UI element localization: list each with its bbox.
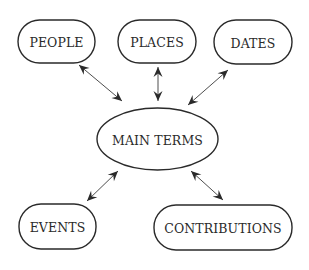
edge-events-main: [87, 171, 118, 201]
node-dates: DATES: [214, 20, 292, 64]
main-terms-label: MAIN TERMS: [112, 133, 203, 148]
connector-line: [79, 65, 122, 101]
contributions-label: CONTRIBUTIONS: [164, 221, 281, 236]
edge-contributions-main: [191, 171, 223, 200]
connector-line: [188, 70, 228, 105]
events-label: EVENTS: [30, 220, 86, 235]
center-node: MAIN TERMS: [97, 108, 218, 170]
node-contributions: CONTRIBUTIONS: [154, 205, 292, 250]
edge-dates-main: [188, 70, 228, 105]
people-label: PEOPLE: [29, 35, 83, 50]
node-people: PEOPLE: [18, 20, 95, 63]
places-label: PLACES: [130, 35, 184, 50]
concept-map-diagram: PEOPLEPLACESDATESEVENTSCONTRIBUTIONS MAI…: [0, 0, 309, 270]
edge-people-main: [79, 65, 122, 101]
edge-places-main: [154, 67, 163, 101]
node-events: EVENTS: [19, 204, 96, 249]
dates-label: DATES: [231, 36, 276, 51]
node-places: PLACES: [118, 20, 196, 63]
